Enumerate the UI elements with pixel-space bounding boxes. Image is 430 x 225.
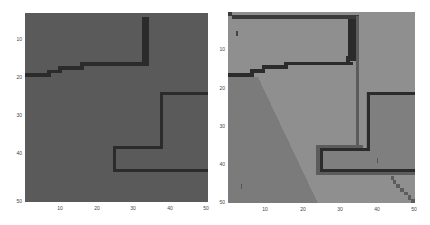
right-xtick-30: 30: [333, 207, 347, 212]
left-xtick-30: 30: [126, 206, 140, 211]
right-xtick-40: 40: [370, 207, 384, 212]
right-ytick-30: 30: [211, 124, 225, 129]
left-xtick-40: 40: [163, 206, 177, 211]
left-ytick-40: 40: [8, 151, 22, 156]
right-plot-area: [228, 12, 415, 203]
right-ytick-40: 40: [211, 162, 225, 167]
left-xtick-10: 10: [53, 206, 67, 211]
right-xtick-50: 50: [407, 207, 421, 212]
right-ytick-20: 20: [211, 86, 225, 91]
left-xtick-20: 20: [90, 206, 104, 211]
left-ytick-50: 50: [8, 199, 22, 204]
right-xtick-20: 20: [296, 207, 310, 212]
left-ytick-20: 20: [8, 75, 22, 80]
right-xtick-10: 10: [258, 207, 272, 212]
right-ytick-50: 50: [211, 200, 225, 205]
left-ytick-10: 10: [8, 37, 22, 42]
left-plot-area: [25, 13, 208, 202]
left-xtick-50: 50: [199, 206, 213, 211]
left-ytick-30: 30: [8, 113, 22, 118]
right-ytick-10: 10: [211, 47, 225, 52]
